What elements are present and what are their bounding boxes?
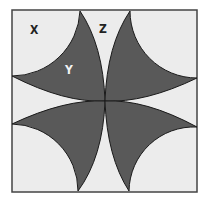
geometry-diagram: X Y Z	[0, 0, 205, 198]
label-z: Z	[99, 22, 107, 36]
label-y: Y	[64, 63, 73, 77]
label-x: X	[30, 23, 39, 37]
